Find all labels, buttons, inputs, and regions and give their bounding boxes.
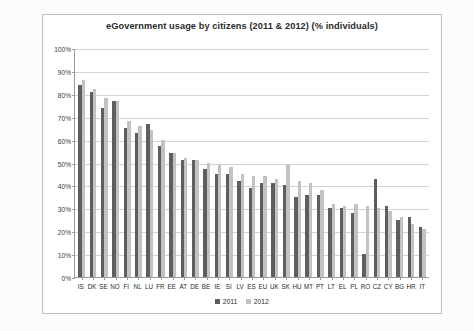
bar-2012-PT: [320, 190, 323, 277]
x-axis-tick: [275, 277, 276, 280]
bar-2012-SI: [229, 167, 232, 277]
bar-group: [383, 49, 394, 277]
x-axis-label-DE: DE: [189, 283, 200, 290]
x-axis-tick: [241, 277, 242, 280]
bar-2012-NL: [138, 126, 141, 277]
y-axis-label: 10%: [58, 252, 71, 259]
x-axis-tick: [366, 277, 367, 280]
bar-2012-IE: [218, 165, 221, 277]
legend-swatch-icon-2012: [246, 299, 251, 304]
bar-2012-RO: [366, 206, 369, 277]
chart-title: eGovernment usage by citizens (2011 & 20…: [43, 21, 441, 31]
bar-group: [190, 49, 201, 277]
y-axis-label: 40%: [58, 183, 71, 190]
bar-2012-AT: [184, 158, 187, 277]
bar-group: [360, 49, 371, 277]
y-axis-label: 100%: [54, 46, 71, 53]
bar-group: [167, 49, 178, 277]
x-axis-tick: [116, 277, 117, 280]
bar-group: [280, 49, 291, 277]
bar-group: [144, 49, 155, 277]
x-axis-label-BG: BG: [394, 283, 405, 290]
y-axis-label: 0%: [61, 275, 71, 282]
y-axis-label: 30%: [58, 206, 71, 213]
bar-group: [337, 49, 348, 277]
x-axis-label-LU: LU: [143, 283, 154, 290]
bar-2012-SE: [104, 98, 107, 277]
bar-group: [326, 49, 337, 277]
x-axis-tick: [218, 277, 219, 280]
x-axis-label-PL: PL: [348, 283, 359, 290]
x-axis-tick: [309, 277, 310, 280]
x-axis-label-NO: NO: [109, 283, 120, 290]
x-axis-tick: [82, 277, 83, 280]
bar-2012-EU: [263, 176, 266, 277]
bar-2012-EL: [343, 206, 346, 277]
bar-group: [156, 49, 167, 277]
x-axis-label-BE: BE: [200, 283, 211, 290]
y-axis-label: 90%: [58, 68, 71, 75]
bar-group: [99, 49, 110, 277]
bar-2012-DK: [93, 89, 96, 277]
y-axis-tick: [72, 278, 75, 279]
bar-2012-PL: [354, 204, 357, 277]
bar-2012-SK: [286, 165, 289, 277]
x-axis-label-ES: ES: [246, 283, 257, 290]
bar-group: [303, 49, 314, 277]
x-axis-tick: [286, 277, 287, 280]
bar-group: [315, 49, 326, 277]
x-axis-label-AT: AT: [178, 283, 189, 290]
bar-group: [235, 49, 246, 277]
x-axis-label-NL: NL: [132, 283, 143, 290]
bar-group: [394, 49, 405, 277]
x-axis-tick: [252, 277, 253, 280]
bar-2012-IS: [82, 80, 85, 277]
bar-group: [349, 49, 360, 277]
legend-swatch-icon-2011: [215, 299, 220, 304]
plot-area: 100%90%80%70%60%50%40%30%20%10%0%: [74, 49, 429, 278]
x-axis-label-IE: IE: [212, 283, 223, 290]
bar-2012-ES: [252, 176, 255, 277]
bar-group: [269, 49, 280, 277]
x-axis-label-HU: HU: [291, 283, 302, 290]
x-axis-tick: [400, 277, 401, 280]
x-axis-tick: [127, 277, 128, 280]
bar-group: [405, 49, 416, 277]
bar-group: [258, 49, 269, 277]
x-axis-tick: [150, 277, 151, 280]
x-axis-label-EE: EE: [166, 283, 177, 290]
bar-group: [178, 49, 189, 277]
chart-page: eGovernment usage by citizens (2011 & 20…: [0, 0, 474, 331]
bar-group: [76, 49, 87, 277]
bar-series-container: [75, 49, 429, 277]
x-axis-label-FI: FI: [121, 283, 132, 290]
x-axis-tick: [138, 277, 139, 280]
bar-group: [246, 49, 257, 277]
bar-2012-UK: [275, 179, 278, 277]
bar-2012-HU: [298, 181, 301, 277]
legend-item-2011: 2011: [215, 298, 237, 305]
bar-group: [417, 49, 428, 277]
bar-2012-BG: [400, 217, 403, 277]
bar-2012-IT: [422, 229, 425, 277]
x-axis-label-EL: EL: [337, 283, 348, 290]
bar-2012-LV: [241, 174, 244, 277]
bar-group: [224, 49, 235, 277]
x-axis-tick: [161, 277, 162, 280]
x-axis-tick: [411, 277, 412, 280]
x-axis-label-FR: FR: [155, 283, 166, 290]
legend-label-2011: 2011: [223, 298, 238, 305]
y-axis-label: 20%: [58, 229, 71, 236]
bar-2012-HR: [411, 224, 414, 277]
bar-group: [292, 49, 303, 277]
x-axis-label-LV: LV: [234, 283, 245, 290]
x-axis-tick: [207, 277, 208, 280]
bar-2012-DE: [195, 160, 198, 277]
x-axis-label-UK: UK: [269, 283, 280, 290]
bar-2012-LU: [150, 130, 153, 277]
bar-group: [371, 49, 382, 277]
bar-2012-EE: [173, 153, 176, 277]
y-axis-label: 50%: [58, 160, 71, 167]
legend-item-2012: 2012: [246, 298, 269, 305]
x-axis-tick: [229, 277, 230, 280]
